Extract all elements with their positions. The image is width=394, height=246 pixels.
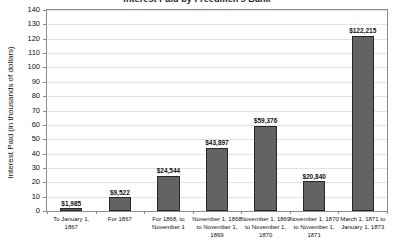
- x-tick-mark: [47, 211, 48, 214]
- bar-value-label: $20,840: [302, 174, 326, 181]
- bar-slot: $59,376: [241, 10, 290, 211]
- y-tick-label: 0: [0, 207, 40, 215]
- x-tick-mark: [241, 211, 242, 214]
- y-tick-mark: [43, 125, 46, 126]
- y-tick-mark: [43, 82, 46, 83]
- y-tick-mark: [43, 211, 46, 212]
- x-category-label-line: 1871: [284, 231, 345, 239]
- y-tick-label: 110: [0, 49, 40, 57]
- y-tick-mark: [43, 39, 46, 40]
- bar-value-label: $9,522: [110, 190, 130, 197]
- bar: [206, 148, 228, 211]
- y-tick-label: 60: [0, 121, 40, 129]
- bar-value-label: $43,897: [205, 140, 229, 147]
- bar-slot: $1,985: [47, 10, 96, 211]
- bar-chart: Interest Paid by Freedmen's Bank Interes…: [0, 0, 394, 246]
- bar-slot: $24,544: [144, 10, 193, 211]
- x-category-label-line: January 1, 1873: [332, 223, 393, 231]
- bar-slot: $9,522: [96, 10, 145, 211]
- x-category-label-line: 1867: [41, 223, 102, 231]
- y-tick-label: 80: [0, 92, 40, 100]
- bar: [109, 197, 131, 211]
- y-tick-label: 140: [0, 6, 40, 14]
- bar-value-label: $1,985: [61, 201, 81, 208]
- x-tick-mark: [193, 211, 194, 214]
- bar-slot: $20,840: [290, 10, 339, 211]
- y-tick-mark: [43, 10, 46, 11]
- y-tick-label: 70: [0, 107, 40, 115]
- y-tick-label: 50: [0, 135, 40, 143]
- y-tick-mark: [43, 139, 46, 140]
- y-tick-mark: [43, 168, 46, 169]
- y-tick-mark: [43, 24, 46, 25]
- bar-slot: $43,897: [193, 10, 242, 211]
- y-tick-label: 90: [0, 78, 40, 86]
- y-tick-label: 120: [0, 35, 40, 43]
- x-tick-mark: [96, 211, 97, 214]
- y-tick-label: 10: [0, 193, 40, 201]
- x-tick-mark: [144, 211, 145, 214]
- x-tick-mark: [338, 211, 339, 214]
- plot-area: $1,985$9,522$24,544$43,897$59,376$20,840…: [46, 9, 388, 212]
- y-tick-label: 20: [0, 178, 40, 186]
- bar-value-label: $24,544: [157, 168, 181, 175]
- y-tick-label: 30: [0, 164, 40, 172]
- bar-value-label: $122,215: [349, 28, 376, 35]
- y-tick-mark: [43, 111, 46, 112]
- bar-value-label: $59,376: [254, 118, 278, 125]
- x-tick-mark: [290, 211, 291, 214]
- x-tick-mark: [387, 211, 388, 214]
- chart-title: Interest Paid by Freedmen's Bank: [0, 0, 394, 4]
- x-category-label: March 1, 1871 toJanuary 1, 1873: [332, 215, 393, 231]
- y-tick-label: 130: [0, 20, 40, 28]
- bar: [303, 181, 325, 211]
- y-tick-mark: [43, 197, 46, 198]
- bar-slot: $122,215: [338, 10, 387, 211]
- bar: [60, 208, 82, 211]
- y-tick-mark: [43, 154, 46, 155]
- bar: [352, 36, 374, 211]
- y-tick-mark: [43, 67, 46, 68]
- y-tick-mark: [43, 182, 46, 183]
- y-tick-mark: [43, 96, 46, 97]
- y-tick-mark: [43, 53, 46, 54]
- x-category-label-line: March 1, 1871 to: [332, 215, 393, 223]
- bar-series: $1,985$9,522$24,544$43,897$59,376$20,840…: [47, 10, 387, 211]
- y-tick-label: 40: [0, 150, 40, 158]
- bar: [157, 176, 179, 211]
- y-tick-label: 100: [0, 63, 40, 71]
- bar: [254, 126, 276, 211]
